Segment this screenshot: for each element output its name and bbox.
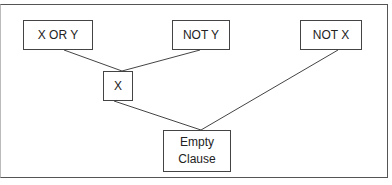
edge-noty-to-x (122, 50, 200, 71)
node-not-x: NOT X (300, 20, 362, 50)
node-label-line2: Clause (178, 151, 215, 168)
node-label: NOT Y (183, 27, 219, 44)
edge-x-to-empty (114, 101, 201, 130)
node-x: X (103, 71, 133, 101)
edge-notx-to-empty (201, 50, 338, 130)
node-label: X OR Y (38, 27, 78, 44)
node-x-or-y: X OR Y (23, 20, 93, 50)
node-label: X (114, 78, 122, 95)
node-empty-clause: Empty Clause (163, 130, 231, 172)
node-label-line1: Empty (180, 134, 214, 151)
edge-xory-to-x (64, 50, 122, 71)
node-not-y: NOT Y (172, 20, 230, 50)
node-label: NOT X (313, 27, 349, 44)
